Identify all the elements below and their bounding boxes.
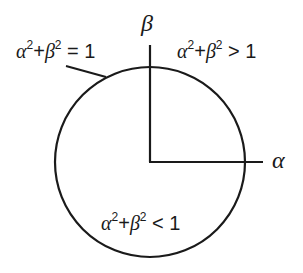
alpha-axis-label: α [272,147,285,173]
equation-on-circle: α2+β2 = 1 [16,38,95,63]
unit-circle-diagram: β α α2+β2 = 1 α2+β2 > 1 α2+β2 < 1 [0,0,303,273]
eq-var-alpha: α [101,212,112,234]
eq-relation: < 1 [147,212,181,234]
eq-var-beta: β [205,40,216,63]
eq-relation: = 1 [62,40,96,62]
equation-inside: α2+β2 < 1 [101,210,180,235]
leader-line [66,66,106,77]
eq-var-alpha: α [177,40,188,62]
eq-relation: > 1 [223,40,257,62]
eq-plus: + [194,40,206,62]
beta-axis-label: β [140,10,153,36]
eq-var-beta: β [129,212,140,235]
eq-plus: + [33,40,45,62]
equation-outside: α2+β2 > 1 [177,38,256,63]
eq-var-alpha: α [16,40,27,62]
eq-var-beta: β [44,40,55,63]
eq-plus: + [118,212,130,234]
